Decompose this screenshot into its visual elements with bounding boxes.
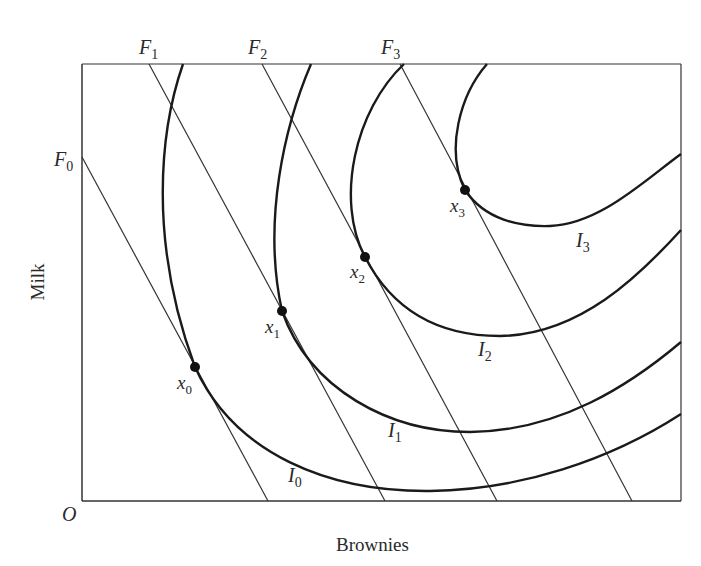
indifference-curve-i2 bbox=[351, 64, 681, 336]
indifference-curve-label-i3: I3 bbox=[575, 229, 590, 255]
optimal-point-x2 bbox=[360, 252, 370, 262]
indifference-curve-i3 bbox=[456, 64, 681, 226]
optimal-point-x3 bbox=[460, 185, 470, 195]
optimal-point-x0 bbox=[190, 362, 200, 372]
optimal-point-label-x3: x3 bbox=[449, 195, 465, 220]
budget-line-label-f0: F0 bbox=[53, 148, 73, 174]
origin-label: O bbox=[62, 503, 76, 525]
y-axis-label: Milk bbox=[27, 263, 48, 300]
optimal-point-label-x1: x1 bbox=[264, 316, 280, 341]
budget-line-f2 bbox=[262, 64, 497, 501]
budget-line-f0 bbox=[82, 157, 268, 501]
budget-line-label-f2: F2 bbox=[247, 36, 267, 62]
budget-line-f1 bbox=[149, 64, 385, 501]
budget-lines: F0F1F2F3 bbox=[53, 36, 632, 501]
optimal-point-x1 bbox=[277, 306, 287, 316]
indifference-curves: I0I1I2I3 bbox=[163, 64, 681, 491]
optimal-point-label-x0: x0 bbox=[176, 372, 192, 397]
indifference-curve-i1 bbox=[274, 64, 681, 432]
budget-line-label-f3: F3 bbox=[380, 36, 400, 62]
optimal-point-label-x2: x2 bbox=[349, 261, 365, 286]
optimal-points: x0x1x2x3 bbox=[176, 185, 470, 397]
indifference-curve-label-i2: I2 bbox=[477, 338, 492, 364]
x-axis-label: Brownies bbox=[336, 534, 409, 555]
indifference-curve-diagram: F0F1F2F3 I0I1I2I3 x0x1x2x3 O Brownies Mi… bbox=[0, 0, 701, 566]
budget-line-f3 bbox=[400, 64, 632, 501]
budget-line-label-f1: F1 bbox=[138, 36, 158, 62]
indifference-curve-label-i1: I1 bbox=[387, 419, 402, 445]
